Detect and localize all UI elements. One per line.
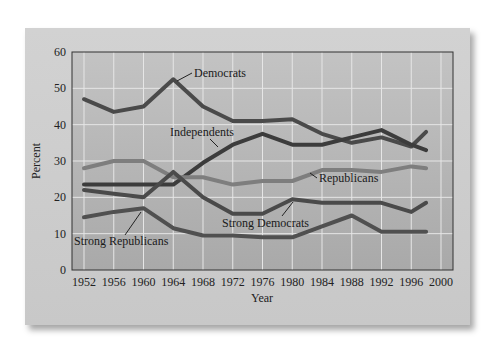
x-tick-label: 1964 (161, 275, 185, 289)
x-tick-label: 1988 (340, 275, 364, 289)
y-tick-label: 60 (54, 45, 66, 59)
y-tick-label: 20 (54, 190, 66, 204)
x-tick-label: 1952 (72, 275, 96, 289)
y-tick-label: 50 (54, 81, 66, 95)
y-tick-label: 0 (60, 263, 66, 277)
x-tick-label: 2000 (429, 275, 453, 289)
x-tick-label: 1992 (370, 275, 394, 289)
y-tick-label: 10 (54, 227, 66, 241)
x-tick-label: 1960 (132, 275, 156, 289)
x-tick-label: 1996 (399, 275, 423, 289)
y-axis-ticks: 0102030405060 (54, 45, 66, 277)
series-label-republicans: Republicans (319, 171, 379, 185)
series-label-strong-republicans: Strong Republicans (74, 234, 169, 248)
x-tick-label: 1984 (310, 275, 334, 289)
x-tick-label: 1976 (251, 275, 275, 289)
y-tick-label: 30 (54, 154, 66, 168)
y-tick-label: 40 (54, 118, 66, 132)
series-label-independents: Independents (170, 125, 234, 139)
x-tick-label: 1972 (221, 275, 245, 289)
series-label-democrats: Democrats (194, 66, 246, 80)
x-tick-label: 1956 (102, 275, 126, 289)
x-tick-label: 1968 (191, 275, 215, 289)
y-axis-title: Percent (29, 142, 43, 179)
x-axis-title: Year (251, 291, 273, 305)
series-label-strong-democrats: Strong Democrats (222, 216, 309, 230)
x-axis-ticks: 1952195619601964196819721976198019841988… (72, 275, 453, 289)
line-chart: 0102030405060 19521956196019641968197219… (0, 0, 499, 348)
x-tick-label: 1980 (280, 275, 304, 289)
